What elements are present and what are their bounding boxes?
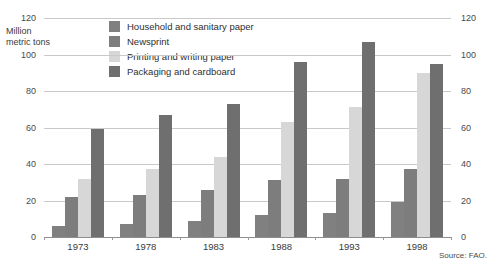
gridline bbox=[44, 91, 451, 92]
bar[interactable] bbox=[133, 195, 146, 237]
bar[interactable] bbox=[255, 215, 268, 237]
bar[interactable] bbox=[391, 202, 404, 237]
bar[interactable] bbox=[78, 179, 91, 237]
x-tick-label: 1993 bbox=[315, 241, 383, 252]
x-tick-label: 1983 bbox=[180, 241, 248, 252]
bar[interactable] bbox=[417, 73, 430, 237]
x-tick-mark bbox=[44, 237, 45, 240]
chart-figure: Million metric tons Household and sanita… bbox=[0, 0, 493, 267]
bar[interactable] bbox=[188, 221, 201, 237]
bar[interactable] bbox=[281, 122, 294, 237]
bar[interactable] bbox=[362, 42, 375, 237]
bar-group bbox=[391, 18, 443, 237]
bar[interactable] bbox=[227, 104, 240, 237]
x-tick-mark bbox=[180, 237, 181, 240]
x-tick-mark bbox=[315, 237, 316, 240]
bar[interactable] bbox=[120, 224, 133, 237]
x-tick-mark bbox=[112, 237, 113, 240]
gridline bbox=[44, 18, 451, 19]
y-tick-label-left: 40 bbox=[6, 160, 36, 169]
y-tick-label-left: 0 bbox=[6, 233, 36, 242]
bar[interactable] bbox=[52, 226, 65, 237]
bar[interactable] bbox=[294, 62, 307, 237]
bar-group bbox=[255, 18, 307, 237]
y-tick-label-left: 20 bbox=[6, 197, 36, 206]
source-note: Source: FAO. bbox=[439, 251, 487, 261]
bar[interactable] bbox=[349, 107, 362, 237]
bar[interactable] bbox=[146, 169, 159, 237]
x-tick-mark bbox=[383, 237, 384, 240]
y-tick-label-right: 120 bbox=[461, 14, 493, 23]
y-tick-label-left: 100 bbox=[6, 51, 36, 60]
bar[interactable] bbox=[336, 179, 349, 237]
x-tick-mark bbox=[248, 237, 249, 240]
gridline bbox=[44, 201, 451, 202]
plot-area bbox=[44, 18, 451, 237]
y-tick-label-left: 80 bbox=[6, 87, 36, 96]
gridline bbox=[44, 164, 451, 165]
bar[interactable] bbox=[404, 169, 417, 237]
y-tick-label-right: 20 bbox=[461, 197, 493, 206]
bar-group bbox=[52, 18, 104, 237]
gridline bbox=[44, 55, 451, 56]
x-tick-mark bbox=[451, 237, 452, 240]
bar[interactable] bbox=[91, 129, 104, 237]
bar[interactable] bbox=[65, 197, 78, 237]
bar[interactable] bbox=[214, 157, 227, 237]
gridline bbox=[44, 128, 451, 129]
bar-group bbox=[323, 18, 375, 237]
bar[interactable] bbox=[323, 213, 336, 237]
y-tick-label-right: 60 bbox=[461, 124, 493, 133]
x-tick-label: 1988 bbox=[248, 241, 316, 252]
bar-group bbox=[120, 18, 172, 237]
x-tick-label: 1973 bbox=[44, 241, 112, 252]
bar[interactable] bbox=[430, 64, 443, 237]
y-tick-label-right: 0 bbox=[461, 233, 493, 242]
bar[interactable] bbox=[268, 180, 281, 237]
y-tick-label-right: 40 bbox=[461, 160, 493, 169]
bar[interactable] bbox=[159, 115, 172, 237]
bar[interactable] bbox=[201, 190, 214, 237]
y-tick-label-right: 80 bbox=[461, 87, 493, 96]
x-tick-label: 1978 bbox=[112, 241, 180, 252]
y-tick-label-right: 100 bbox=[461, 51, 493, 60]
y-tick-label-left: 120 bbox=[6, 14, 36, 23]
y-tick-label-left: 60 bbox=[6, 124, 36, 133]
bar-group bbox=[188, 18, 240, 237]
